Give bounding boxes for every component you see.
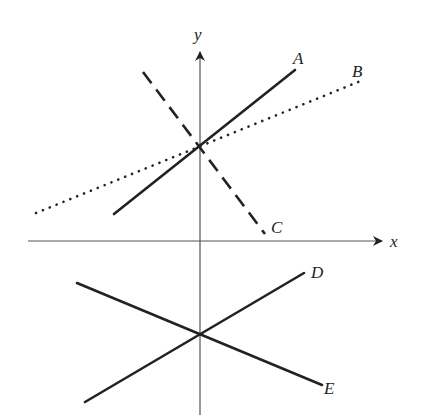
line-d-label: D xyxy=(310,263,324,282)
line-a-label: A xyxy=(292,49,304,68)
line-a xyxy=(114,70,295,214)
line-e-label: E xyxy=(323,379,335,398)
line-b-label: B xyxy=(352,62,363,81)
line-c-label: C xyxy=(271,218,283,237)
x-axis-label: x xyxy=(389,232,398,251)
coordinate-diagram: x y A B C D E xyxy=(0,0,422,415)
y-axis-label: y xyxy=(192,25,202,44)
line-d xyxy=(85,273,304,402)
line-c xyxy=(143,72,265,234)
